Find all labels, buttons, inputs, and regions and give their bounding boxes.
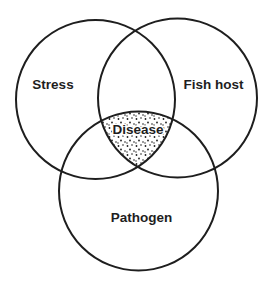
disease-label: Disease: [112, 122, 164, 137]
pathogen-label: Pathogen: [111, 210, 173, 225]
venn-diagram: Disease Stress Fish host Pathogen Diseas…: [0, 0, 267, 287]
fish-host-label: Fish host: [184, 77, 245, 92]
fish-host-circle: [98, 19, 257, 178]
stress-circle: [16, 20, 175, 179]
stress-label: Stress: [32, 77, 73, 92]
